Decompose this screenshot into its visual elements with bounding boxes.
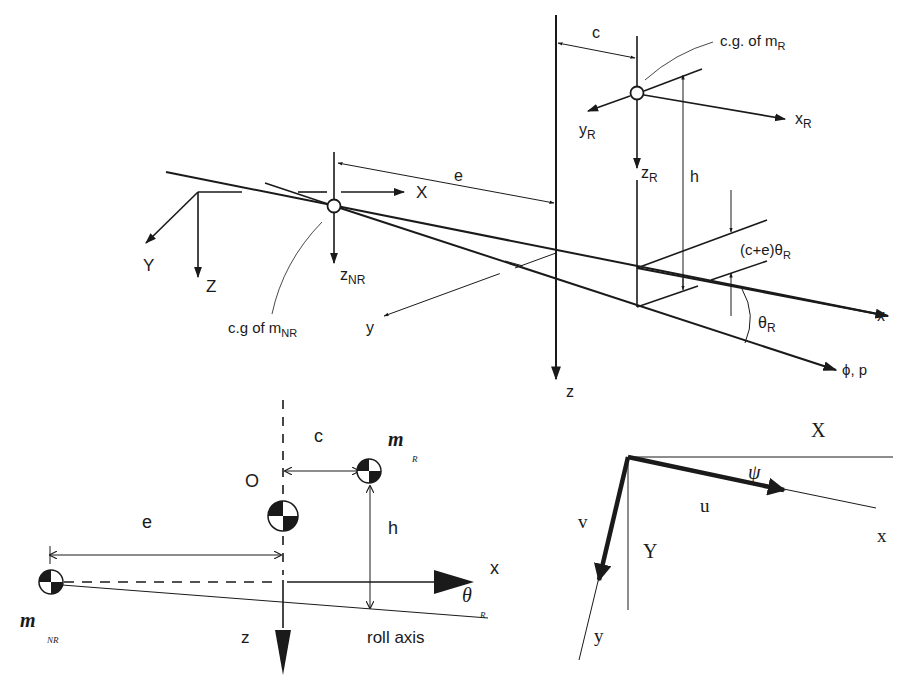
- label-h: h: [690, 168, 699, 185]
- u-velocity-arrow: [628, 457, 784, 490]
- svg-text:θR: θR: [758, 314, 776, 335]
- svg-text:c.g of mNR: c.g of mNR: [228, 319, 297, 339]
- label-Z: Z: [206, 277, 216, 296]
- label-theta-sub: R: [479, 610, 486, 620]
- label-yR-sub: R: [587, 128, 596, 142]
- label-Y: Y: [643, 540, 657, 562]
- label-v: v: [578, 511, 588, 532]
- vehicle-roll-dynamics-figure: Y Z X zNR c.g of mNR e z y: [0, 0, 910, 689]
- svg-text:c.g. of mR: c.g. of mR: [720, 32, 786, 52]
- xR-axis-arrow: [644, 95, 785, 119]
- roll-axis-line: [62, 585, 488, 618]
- diagram-svg: Y Z X zNR c.g of mNR e z y: [0, 0, 910, 689]
- label-mNR: m: [20, 609, 36, 631]
- label-mR-sub: R: [411, 454, 418, 464]
- label-O: O: [245, 471, 259, 491]
- label-u: u: [700, 495, 710, 516]
- label-zNR: z: [340, 266, 348, 283]
- label-c: c: [314, 426, 323, 446]
- svg-text:xR: xR: [795, 110, 812, 131]
- yR-axis-arrow: [588, 96, 630, 111]
- label-zR: z: [641, 164, 649, 181]
- label-y: y: [366, 319, 374, 336]
- label-cg-mR-sub: R: [778, 40, 786, 52]
- cg-symbol-mR: [357, 459, 381, 483]
- label-z: z: [566, 383, 574, 400]
- label-y: y: [594, 625, 604, 646]
- label-ce-theta: (c+e)θ: [740, 241, 783, 258]
- label-theta: θ: [462, 584, 472, 606]
- label-roll-axis: roll axis: [367, 628, 425, 647]
- label-cg-mR: c.g. of m: [720, 32, 778, 49]
- label-zNR-sub: NR: [348, 273, 366, 287]
- bottom-right-yaw-diagram: X ψ u v Y x y: [578, 419, 893, 660]
- bottom-left-side-view-diagram: z x roll axis θ R c e h O: [20, 400, 499, 675]
- label-zR-sub: R: [649, 171, 658, 185]
- e-dimension-arrow: [338, 163, 554, 203]
- svg-text:yR: yR: [579, 121, 596, 142]
- offset-lower-line-b: [711, 261, 767, 280]
- inertial-axes-XYZ: Y Z: [143, 192, 242, 296]
- label-phi-p: ϕ, p: [842, 361, 867, 378]
- offset-lower-line-a: [637, 286, 698, 307]
- label-e: e: [454, 167, 463, 184]
- cg-mR-marker: [631, 87, 644, 100]
- label-x: x: [490, 558, 499, 578]
- label-x: x: [877, 307, 885, 324]
- label-xR: x: [795, 110, 803, 127]
- label-mNR-sub: NR: [46, 635, 59, 645]
- label-thetaR-sub: R: [767, 321, 776, 335]
- label-cg-mNR: c.g of m: [228, 319, 281, 336]
- label-ce-theta-sub: R: [783, 249, 791, 261]
- label-x: x: [877, 525, 887, 546]
- cg-symbol-total: [268, 501, 298, 531]
- label-Y: Y: [143, 256, 154, 275]
- label-thetaR: θ: [758, 314, 767, 331]
- svg-text:(c+e)θR: (c+e)θR: [740, 241, 791, 261]
- y-axis-arrow: [384, 253, 556, 316]
- z-axis-arrowhead: [275, 630, 291, 675]
- v-velocity-arrow: [599, 457, 628, 580]
- svg-text:zR: zR: [641, 164, 658, 185]
- label-mR: m: [388, 428, 404, 450]
- cg-mNR-marker: [328, 200, 341, 213]
- label-c: c: [592, 24, 600, 41]
- label-cg-mNR-sub: NR: [281, 327, 297, 339]
- c-dimension-arrow: [558, 43, 635, 58]
- top-3d-roll-diagram: Y Z X zNR c.g of mNR e z y: [143, 15, 888, 400]
- label-z: z: [241, 628, 250, 647]
- label-X: X: [811, 419, 826, 441]
- label-e: e: [142, 512, 152, 532]
- rolled-horizontal-line: [644, 69, 702, 91]
- svg-text:zNR: zNR: [340, 266, 366, 287]
- inertial-Y-axis-arrow: [146, 192, 198, 243]
- x-axis-arrow: [637, 268, 888, 316]
- cg-symbol-mNR: [39, 570, 63, 594]
- cg-mNR-leader-line: [272, 222, 322, 314]
- cg-mR-leader-line: [645, 42, 713, 80]
- roll-axis-phi-arrow: [334, 206, 836, 370]
- thetaR-angle-arc: [742, 289, 750, 343]
- label-h: h: [388, 518, 398, 538]
- label-yR: y: [579, 121, 587, 138]
- label-psi: ψ: [748, 461, 761, 484]
- label-X: X: [416, 183, 427, 202]
- label-xR-sub: R: [803, 117, 812, 131]
